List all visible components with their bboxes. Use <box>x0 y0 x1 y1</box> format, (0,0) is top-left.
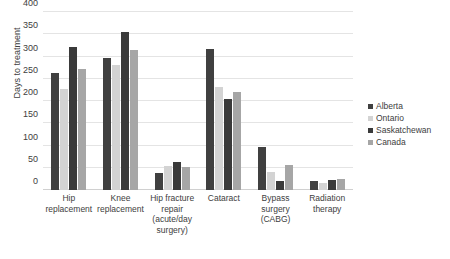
bar <box>276 181 284 190</box>
bar <box>155 173 163 190</box>
bar-group <box>95 12 147 190</box>
bar <box>233 92 241 190</box>
x-axis-category-label: Bypass surgery (CABG) <box>250 193 302 235</box>
y-axis-tick-label: 50 <box>28 154 38 163</box>
x-axis-category-label: Hip replacement <box>43 193 95 235</box>
bar-group <box>43 12 95 190</box>
x-axis-category-label: Hip fracture repair (acute/day surgery) <box>146 193 198 235</box>
y-axis-tick-label: 250 <box>23 65 38 74</box>
bar <box>206 49 214 190</box>
bar <box>121 32 129 190</box>
legend-swatch-icon <box>368 104 373 109</box>
bars-layer <box>43 12 353 190</box>
bar <box>267 172 275 190</box>
bar <box>319 183 327 190</box>
legend-swatch-icon <box>368 140 373 145</box>
bar-chart: Days to treatment 0501001502002503003504… <box>0 0 450 259</box>
bar <box>215 87 223 190</box>
bar <box>258 147 266 190</box>
x-axis-category-label: Cataract <box>198 193 250 235</box>
bar-group <box>198 12 250 190</box>
bar <box>164 166 172 190</box>
y-axis-tick-label: 200 <box>23 88 38 97</box>
legend-item[interactable]: Saskatchewan <box>368 124 431 136</box>
bar <box>182 167 190 190</box>
legend-item[interactable]: Ontario <box>368 112 431 124</box>
bar <box>285 165 293 190</box>
bar <box>310 181 318 190</box>
bar-group <box>301 12 353 190</box>
legend-label: Canada <box>376 138 406 147</box>
bar <box>51 73 59 190</box>
y-axis-tick-label: 0 <box>33 177 38 186</box>
bar <box>112 65 120 190</box>
y-axis-tick-label: 150 <box>23 110 38 119</box>
bar <box>328 180 336 190</box>
y-axis-tick-label: 400 <box>23 0 38 8</box>
x-axis-category-label: Knee replacement <box>95 193 147 235</box>
bar <box>224 99 232 190</box>
y-axis-tick-label: 100 <box>23 132 38 141</box>
y-axis-title: Days to treatment <box>12 0 22 128</box>
legend-item[interactable]: Alberta <box>368 100 431 112</box>
y-axis-tick-label: 350 <box>23 21 38 30</box>
bar <box>130 50 138 190</box>
y-axis-tick-label: 300 <box>23 43 38 52</box>
legend-swatch-icon <box>368 128 373 133</box>
bar <box>60 89 68 190</box>
legend-swatch-icon <box>368 116 373 121</box>
legend: AlbertaOntarioSaskatchewanCanada <box>368 100 431 148</box>
bar <box>337 179 345 190</box>
bar-group <box>146 12 198 190</box>
legend-item[interactable]: Canada <box>368 136 431 148</box>
legend-label: Alberta <box>376 102 403 111</box>
bar <box>69 47 77 190</box>
bar <box>78 69 86 190</box>
legend-label: Saskatchewan <box>376 126 431 135</box>
legend-label: Ontario <box>376 114 404 123</box>
x-axis-labels: Hip replacementKnee replacementHip fract… <box>43 193 353 235</box>
bar <box>103 58 111 190</box>
bar-group <box>250 12 302 190</box>
x-axis-category-label: Radiation therapy <box>301 193 353 235</box>
plot-area: 050100150200250300350400 <box>43 12 353 190</box>
bar <box>173 162 181 190</box>
